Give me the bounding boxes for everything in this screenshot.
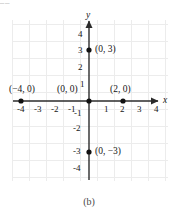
y-axis-label: y [86, 11, 90, 21]
y-tick-neg2: -2 [73, 124, 81, 133]
point-label-0-3: (0, 3) [95, 45, 116, 55]
point-label-0-neg3: (0, −3) [95, 147, 121, 157]
x-tick-neg4: -4 [17, 105, 25, 114]
y-tick-3: 3 [78, 46, 83, 55]
y-tick-neg4: -4 [73, 164, 81, 173]
y-tick-2: 2 [78, 63, 83, 72]
figure-caption: (b) [0, 196, 178, 207]
point-2-0 [120, 98, 125, 103]
point-0-0 [86, 98, 91, 103]
y-tick-1: 1 [80, 80, 85, 89]
point-neg4-0 [18, 98, 23, 103]
coordinate-plane-svg [0, 0, 178, 215]
x-tick-neg2: -2 [51, 105, 59, 114]
x-tick-3: 3 [137, 105, 142, 114]
x-tick-2: 2 [120, 105, 125, 114]
x-axis-label: x [163, 96, 167, 106]
y-tick-4: 4 [78, 30, 83, 39]
x-tick-neg3: -3 [34, 105, 42, 114]
coordinate-plane-figure: x y -4 -3 -2 -1 1 2 3 4 4 3 2 1 -1 -2 -3… [0, 0, 178, 215]
point-label-neg4-0: (−4, 0) [9, 85, 35, 95]
y-tick-neg3: -3 [73, 147, 81, 156]
point-label-2-0: (2, 0) [110, 85, 131, 95]
y-tick-neg1: -1 [74, 109, 82, 118]
point-0-neg3 [86, 149, 91, 154]
x-tick-4: 4 [154, 105, 159, 114]
point-0-3 [86, 47, 91, 52]
point-label-0-0: (0, 0) [57, 85, 78, 95]
x-tick-1: 1 [104, 105, 109, 114]
